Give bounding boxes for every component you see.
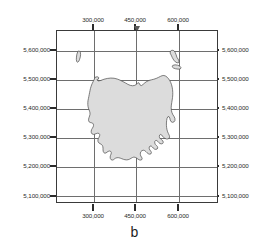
y-axis-left-label-0: 5,600,000	[4, 46, 50, 53]
y-axis-left-label-5: 5,100,000	[4, 192, 50, 199]
northeast-island-small-shape	[172, 65, 181, 69]
x-axis-bottom-label-2: 600,000	[156, 212, 200, 219]
west-island-shape	[76, 51, 80, 62]
map-geometry	[57, 31, 217, 202]
x-axis-bottom-label-0: 300,000	[71, 212, 115, 219]
y-axis-right-label-5: 5,100,000	[222, 192, 268, 199]
y-axis-right-label-4: 5,200,000	[222, 162, 268, 169]
main-island-shape	[88, 75, 175, 160]
y-axis-right-label-0: 5,600,000	[222, 46, 268, 53]
y-axis-left-label-3: 5,300,000	[4, 133, 50, 140]
y-axis-left-label-4: 5,200,000	[4, 162, 50, 169]
x-axis-bottom-tick-1	[134, 204, 136, 211]
figure-panel-b: 300,000 450,000 600,000 5,600,000 5,500,…	[0, 0, 269, 249]
northeast-island-large-shape	[170, 50, 179, 63]
x-axis-top-label-0: 300,000	[71, 16, 115, 23]
x-axis-top-label-2: 600,000	[156, 16, 200, 23]
y-axis-left-label-2: 5,400,000	[4, 104, 50, 111]
x-axis-bottom-tick-2	[177, 204, 179, 211]
x-axis-bottom-label-1: 450,000	[113, 212, 157, 219]
y-axis-right-label-1: 5,500,000	[222, 75, 268, 82]
x-axis-bottom-tick-0	[92, 204, 94, 211]
y-axis-left-label-1: 5,500,000	[4, 75, 50, 82]
y-axis-right-label-3: 5,300,000	[222, 133, 268, 140]
x-axis-top-label-1: 450,000	[113, 16, 157, 23]
figure-caption: b	[0, 224, 269, 240]
map-plot-area	[56, 30, 218, 203]
y-axis-right-label-2: 5,400,000	[222, 104, 268, 111]
